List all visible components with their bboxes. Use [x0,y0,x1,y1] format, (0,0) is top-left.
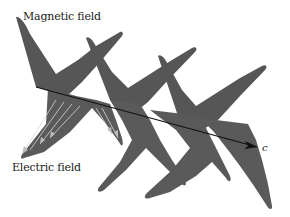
electric-field-wave [21,88,272,209]
electric-field-label: Electric field [12,162,81,173]
propagation-speed-label: c [262,143,268,153]
em-wave-diagram: Magnetic field Electric field c [0,0,290,217]
electric-lobe-4 [200,118,272,209]
magnetic-field-label: Magnetic field [23,11,101,22]
em-wave-graphic [0,0,290,217]
electric-lobe-1 [21,88,123,159]
